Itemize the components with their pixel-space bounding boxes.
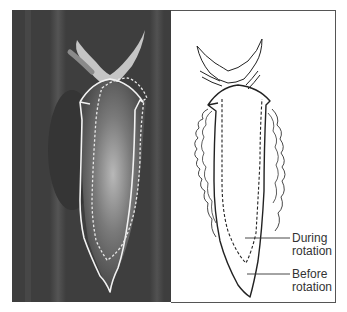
label-line: rotation bbox=[292, 245, 332, 258]
photo-illustration bbox=[12, 10, 171, 302]
photo-panel bbox=[12, 10, 171, 302]
label-before-rotation: Before rotation bbox=[292, 268, 332, 294]
drawing-panel: During rotation Before rotation bbox=[171, 10, 336, 303]
label-line: rotation bbox=[292, 281, 332, 294]
line-drawing bbox=[171, 11, 335, 302]
label-during-rotation: During rotation bbox=[292, 232, 332, 258]
figure: During rotation Before rotation bbox=[0, 0, 347, 312]
